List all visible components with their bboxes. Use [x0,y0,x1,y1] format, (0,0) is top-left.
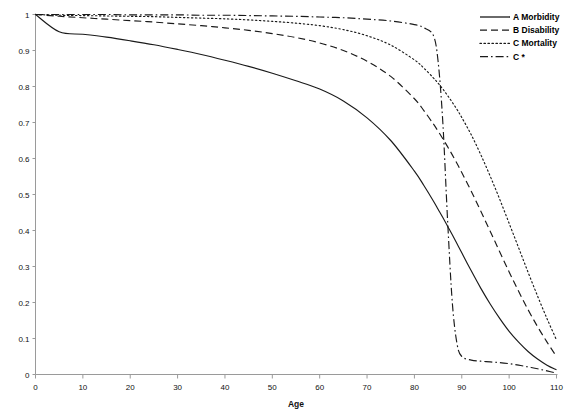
x-tick-label: 10 [78,383,87,392]
legend-label-0: A Morbidity [513,12,560,22]
legend-label-3: C * [513,52,526,62]
x-tick-label: 30 [173,383,182,392]
y-tick-label: 0.2 [18,299,30,308]
y-tick-label: 0.9 [18,47,30,56]
x-tick-label: 40 [221,383,230,392]
y-tick-label: 0.7 [18,119,30,128]
series-line-2 [36,15,557,340]
y-tick-label: 0.3 [18,263,30,272]
x-tick-label: 70 [363,383,372,392]
x-tick-label: 100 [502,383,516,392]
y-tick-label: 0.4 [18,227,30,236]
y-tick-label: 0.8 [18,83,30,92]
legend-label-1: B Disability [513,25,560,35]
line-chart: 00.10.20.30.40.50.60.70.80.9101020304050… [0,0,579,412]
y-tick-label: 0.6 [18,155,30,164]
x-tick-label: 80 [410,383,419,392]
series-line-3 [36,14,557,373]
series-line-0 [36,15,557,370]
x-tick-label: 50 [268,383,277,392]
x-tick-label: 20 [126,383,135,392]
x-tick-label: 110 [550,383,563,392]
y-tick-label: 1 [25,11,30,20]
x-tick-label: 60 [315,383,324,392]
x-axis-title: Age [288,399,304,409]
y-tick-label: 0.1 [18,335,30,344]
y-tick-label: 0 [25,371,30,380]
x-tick-label: 90 [457,383,466,392]
chart-container: 00.10.20.30.40.50.60.70.80.9101020304050… [0,0,579,412]
legend-label-2: C Mortality [513,38,557,48]
series-line-1 [36,15,557,357]
y-tick-label: 0.5 [18,191,30,200]
x-tick-label: 0 [33,383,38,392]
